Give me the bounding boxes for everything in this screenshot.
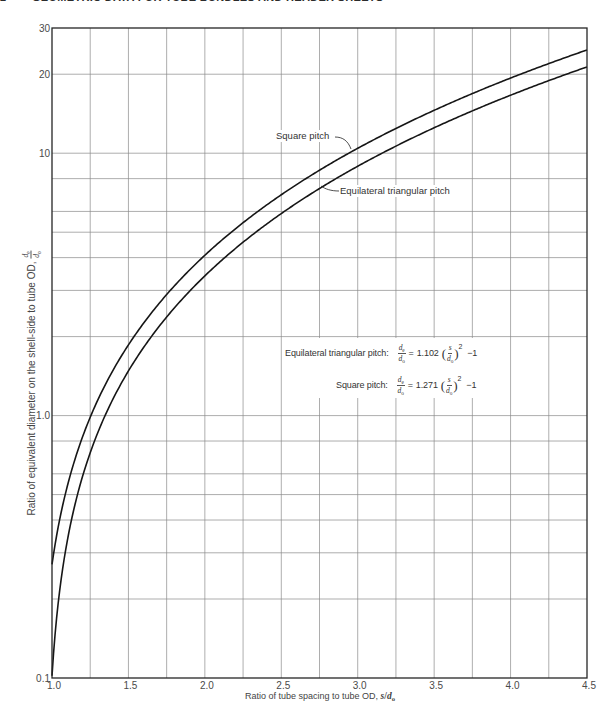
y-tick-label: 10	[39, 148, 51, 159]
formula-square: Square pitch: de do = 1.271 ( s do ) 2 −…	[336, 374, 479, 396]
x-tick-label: 2.0	[200, 680, 214, 691]
triangular-pitch-label: Equilateral triangular pitch	[339, 185, 451, 197]
x-axis-label-text: Ratio of tube spacing to tube OD,	[245, 691, 381, 701]
y-axis-label: Ratio of equivalent diameter on the shel…	[22, 246, 41, 515]
constant: −1	[466, 380, 476, 391]
y-axis-label-text: Ratio of equivalent diameter on the shel…	[24, 262, 38, 516]
rhs-fraction: s do	[446, 376, 452, 395]
lhs-denominator-subscript: o	[401, 390, 404, 396]
lhs-numerator-subscript: e	[401, 379, 403, 385]
x-tick-label: 4.5	[582, 680, 596, 691]
exponent: 2	[458, 341, 462, 352]
lhs-numerator-subscript: e	[402, 347, 404, 353]
symbol-numerator-subscript: e	[25, 251, 31, 253]
symbol-denominator-subscript: o	[36, 251, 42, 254]
constant: −1	[467, 348, 477, 359]
symbol-denominator: d	[32, 254, 41, 258]
symbol-denominator-subscript: o	[392, 695, 395, 702]
formula-equilateral-triangular: Equilateral triangular pitch: de do = 1.…	[285, 342, 480, 364]
y-axis-label-symbol: de do	[22, 250, 41, 258]
formula-label: Square pitch:	[336, 380, 388, 391]
lhs-fraction: de do	[397, 376, 405, 395]
square-pitch-leader-line	[335, 137, 351, 149]
equals-sign: =	[408, 380, 413, 391]
equals-sign: =	[409, 348, 414, 359]
rhs-denominator-subscript: o	[451, 358, 454, 364]
y-tick-label: 20	[39, 69, 51, 80]
y-tick-label: 30	[39, 23, 51, 34]
rhs-denominator-subscript: o	[450, 390, 453, 396]
square-pitch-label: Square pitch	[275, 130, 330, 142]
rhs-numerator: s	[448, 375, 451, 384]
x-tick-label: 4.0	[506, 680, 520, 691]
x-axis-label: Ratio of tube spacing to tube OD, s/do	[245, 690, 395, 702]
formula-label: Equilateral triangular pitch:	[285, 348, 389, 359]
x-tick-label: 1.5	[123, 680, 137, 691]
y-tick-label: 0.1	[36, 673, 50, 684]
page: 2 GEOMETRIC DATA FOR TUBE BUNDLES AND HE…	[0, 0, 610, 714]
x-tick-label: 3.5	[429, 680, 443, 691]
rhs-numerator: s	[449, 343, 452, 352]
coefficient: 1.271	[416, 380, 438, 391]
coefficient: 1.102	[417, 348, 439, 359]
lhs-fraction: de do	[398, 344, 406, 363]
exponent: 2	[457, 373, 461, 384]
lhs-denominator-subscript: o	[402, 358, 405, 364]
rhs-fraction: s do	[447, 344, 453, 363]
symbol-numerator: d	[21, 254, 30, 258]
open-paren: (	[441, 380, 445, 391]
x-axis-label-symbol: s/do	[381, 691, 395, 701]
open-paren: (	[442, 348, 446, 359]
